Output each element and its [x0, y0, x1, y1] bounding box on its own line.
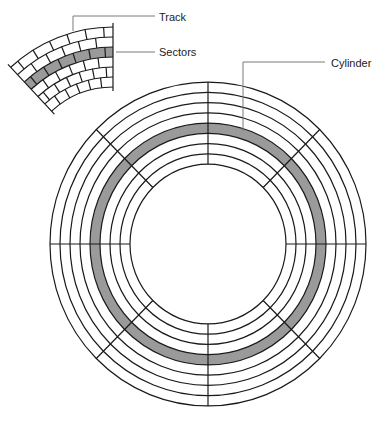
sector-divider — [263, 301, 320, 359]
inset-sector-divider — [106, 67, 107, 77]
cylinder-label: Cylinder — [331, 57, 371, 69]
inset-sector-divider — [66, 77, 70, 86]
inset-sector-divider — [78, 41, 80, 51]
track-ring — [130, 164, 286, 324]
inset-sector-divider — [76, 84, 80, 93]
track-leader — [73, 16, 155, 31]
sectors-label: Sectors — [159, 46, 196, 58]
inset-sector-divider — [67, 34, 70, 44]
inset-sector-divider — [43, 80, 49, 88]
inset-sector-divider — [96, 38, 97, 48]
disk-diagram — [0, 0, 385, 421]
inset-sector-divider — [54, 96, 60, 104]
inset-sector-divider — [46, 54, 51, 63]
inset-track-arc — [52, 87, 113, 111]
inset-sector-divider — [98, 58, 99, 68]
sector-divider — [263, 129, 320, 187]
inset-sector-divider — [62, 47, 66, 56]
inset-sector-divider — [65, 89, 70, 98]
leader-lines — [73, 16, 325, 131]
inset-sector-divider — [31, 63, 37, 71]
inset-sector-divider — [43, 92, 49, 100]
inset-sector-divider — [69, 65, 73, 74]
track-sector-inset — [8, 23, 113, 114]
inset-sector-divider — [54, 84, 59, 92]
inset-sector-divider — [105, 47, 106, 57]
inset-sector-divider — [79, 72, 82, 82]
inset-sector-divider — [83, 61, 85, 71]
inset-sector-divider — [88, 80, 90, 90]
inset-sector-divider — [92, 69, 94, 79]
track-label: Track — [159, 11, 186, 23]
inset-sector-divider — [104, 27, 105, 37]
inset-sector-divider — [85, 30, 87, 40]
inset-sector-divider — [49, 41, 53, 50]
inset-sector-divider — [33, 50, 38, 58]
sector-divider — [96, 129, 153, 187]
sector-divider — [96, 301, 153, 359]
inset-sector-divider — [55, 72, 60, 81]
disk-platter — [50, 82, 366, 406]
inset-sector-divider — [18, 61, 24, 69]
inset-sector-divider — [101, 78, 102, 88]
cylinder-leader — [243, 62, 325, 131]
